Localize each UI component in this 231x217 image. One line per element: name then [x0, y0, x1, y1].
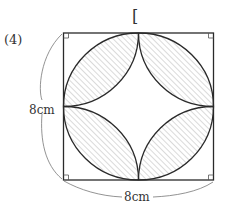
- answer-bracket: [: [132, 7, 138, 26]
- problem-number: (4): [4, 32, 22, 47]
- dimension-arc-bottom-left: [64, 181, 122, 197]
- side-length-label-left: 8cm: [29, 103, 55, 117]
- side-length-label-bottom: 8cm: [124, 190, 150, 204]
- dimension-arc-left-top: [40, 34, 62, 100]
- geometry-figure: [ (4) 8cm 8cm: [0, 0, 231, 217]
- shaded-regions: [64, 33, 214, 180]
- dimension-arc-bottom-right: [153, 182, 213, 197]
- dimension-arc-left-bottom: [42, 114, 62, 179]
